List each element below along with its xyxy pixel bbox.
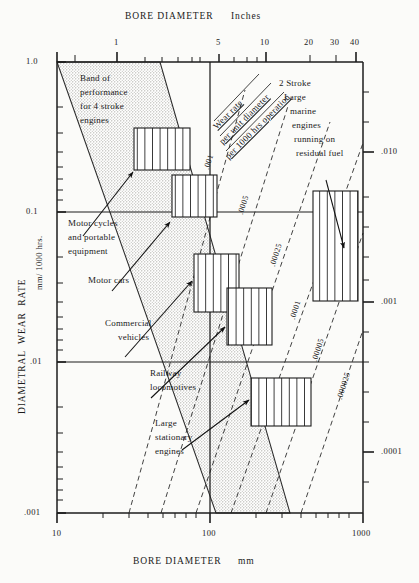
large-stationary-box [251,378,311,426]
annotation-2stroke-4: engines [292,120,321,131]
band-label-line1: Band of [80,73,110,84]
annotation-2stroke-3: marine [290,106,316,117]
top-tick-5: 5 [216,37,221,47]
annotation-commercial-1: Commercial [105,318,152,329]
left-tick-1: 1.0 [26,56,38,66]
y-axis-units: mm/ 1000 hrs. [34,235,44,290]
annotation-motor-cycles-2: and portable [68,232,115,243]
chart-canvas: BORE DIAMETER Inches BORE DIAMETER mm DI… [0,0,419,583]
annotation-large-stationary-3: engines [155,446,184,457]
bottom-axis-title: BORE DIAMETER [133,556,222,567]
annotation-motor-cycles-1: Motor cycles [68,218,118,229]
top-axis-units: Inches [231,11,261,22]
top-tick-10: 10 [260,37,269,47]
top-axis-title: BORE DIAMETER [125,11,214,22]
annotation-large-stationary-1: Large [155,418,177,429]
annotation-railway-2: locomotives [150,382,196,393]
annotation-railway-1: Railway [150,368,181,379]
annotation-2stroke-6: residual fuel [296,148,343,159]
right-tick-010: .010 [381,146,397,156]
top-tick-30: 30 [330,37,339,47]
top-tick-1: 1 [114,37,119,47]
band-label-line2: performance [80,87,128,98]
top-tick-20: 20 [304,37,313,47]
motor-cars-box [172,175,217,217]
annotation-2stroke-2: Large [284,92,306,103]
right-axis-ticks [363,92,374,482]
motor-cycles-box [134,128,190,170]
left-tick-0001: .001 [24,507,40,517]
chart-svg [0,0,419,583]
left-axis-ticks [57,62,66,513]
left-tick-001: .01 [30,356,42,366]
bottom-axis-units: mm [238,556,255,567]
annotation-2stroke-5: running on [294,134,335,145]
annotation-commercial-2: vehicles [118,332,149,343]
annotation-large-stationary-2: stationary [155,432,193,443]
bottom-tick-1000: 1000 [352,528,371,538]
annotation-motor-cycles-3: equipment [68,246,108,257]
band-label-line3: for 4 stroke [80,101,124,112]
right-tick-0001: .0001 [381,446,402,456]
band-label-line4: engines [80,115,109,126]
annotation-motor-cars: Motor cars [88,275,129,286]
top-axis-ticks [57,52,356,62]
annotation-2stroke-1: 2 Stroke [279,78,311,89]
top-tick-40: 40 [350,37,359,47]
right-tick-001: .001 [381,296,397,306]
y-axis-title: DIAMETRAL WEAR RATE [17,278,28,414]
bottom-tick-100: 100 [202,528,216,538]
left-tick-01: 0.1 [26,206,38,216]
bottom-tick-10: 10 [52,528,61,538]
railway-locomotives-box [227,288,272,345]
bottom-axis-ticks [57,513,363,523]
marine-engines-box [313,191,358,301]
